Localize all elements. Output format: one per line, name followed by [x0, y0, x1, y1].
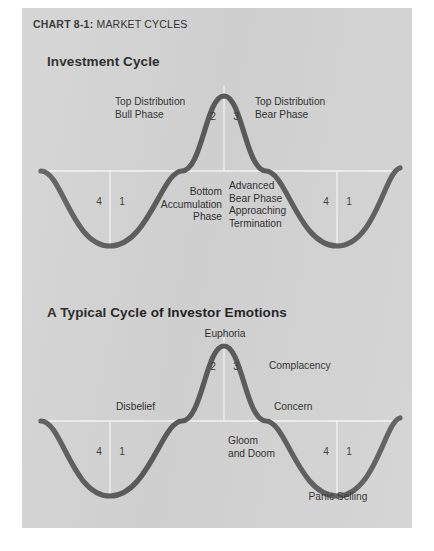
phase-number-peak-2: 2: [207, 361, 219, 372]
phase-number-left-trough-4: 4: [93, 446, 105, 457]
chart-investor-emotions: Euphoria Complacency Disbelief Concern G…: [22, 330, 412, 520]
phase-number-peak-3: 3: [230, 361, 242, 372]
chart-investment-cycle: Top Distribution Bull Phase Top Distribu…: [22, 80, 412, 260]
phase-number-right-trough-4: 4: [320, 196, 332, 207]
phase-number-right-trough-4: 4: [320, 446, 332, 457]
annotation-panic-selling: Panic Selling: [293, 491, 383, 504]
figure-panel: CHART 8-1: MARKET CYCLES Investment Cycl…: [22, 8, 412, 528]
phase-number-right-trough-1: 1: [343, 196, 355, 207]
phase-number-peak-3: 3: [230, 111, 242, 122]
phase-number-peak-2: 2: [207, 111, 219, 122]
phase-number-right-trough-1: 1: [343, 446, 355, 457]
annotation-euphoria: Euphoria: [190, 328, 260, 341]
annotation-complacency: Complacency: [269, 360, 369, 373]
chart-caption: CHART 8-1: MARKET CYCLES: [33, 18, 188, 30]
section-title-investor-emotions: A Typical Cycle of Investor Emotions: [47, 305, 287, 320]
phase-number-left-trough-1: 1: [116, 196, 128, 207]
phase-number-left-trough-4: 4: [93, 196, 105, 207]
annotation-bottom-accumulation-phase: Bottom Accumulation Phase: [132, 186, 222, 224]
section-title-investment-cycle: Investment Cycle: [47, 54, 160, 69]
chart-caption-number: CHART 8-1:: [33, 18, 93, 30]
phase-number-left-trough-1: 1: [116, 446, 128, 457]
annotation-concern: Concern: [274, 401, 344, 414]
annotation-top-distribution-bear-phase: Top Distribution Bear Phase: [255, 96, 375, 121]
annotation-gloom-and-doom: Gloom and Doom: [228, 435, 318, 460]
chart-caption-text: MARKET CYCLES: [93, 18, 187, 30]
annotation-advanced-bear-phase: Advanced Bear Phase Approaching Terminat…: [229, 180, 329, 230]
annotation-disbelief: Disbelief: [116, 401, 186, 414]
